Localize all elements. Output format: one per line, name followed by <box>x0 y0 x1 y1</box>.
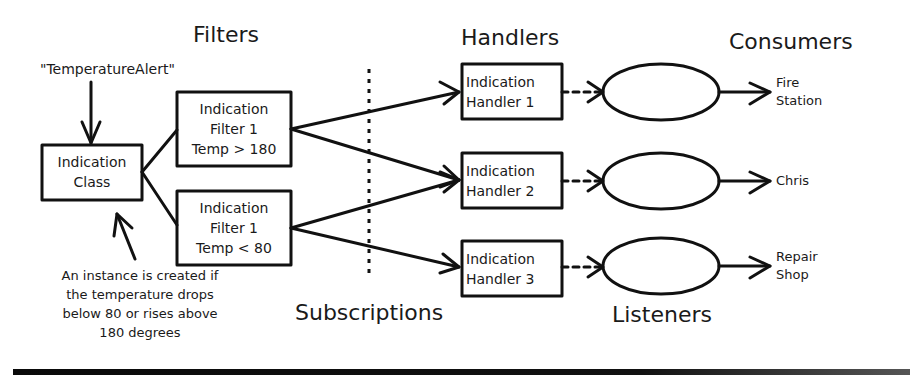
filter-1-to-handler-1-line <box>291 92 459 129</box>
note-line-2: the temperature drops <box>30 285 250 304</box>
consumer-3-line-2: Shop <box>776 266 818 284</box>
event-name-label: "TemperatureAlert" <box>40 60 175 78</box>
note-line-4: 180 degrees <box>30 323 250 342</box>
indication-class-label: Indication Class <box>42 152 142 192</box>
consumer-2-line-1: Chris <box>776 172 809 190</box>
bottom-rule <box>13 369 910 375</box>
filter-2-line-1: Indication <box>177 198 291 218</box>
indication-class-line-2: Class <box>42 172 142 192</box>
filter-1-line-1: Indication <box>177 99 291 119</box>
handler-2-label: Indication Handler 2 <box>466 161 556 201</box>
filter-2-line-2: Filter 1 <box>177 218 291 238</box>
handler-1-line-1: Indication <box>466 72 556 92</box>
handler-2-line-1: Indication <box>466 161 556 181</box>
note-line-1: An instance is created if <box>30 266 250 285</box>
handler-1-line-2: Handler 1 <box>466 92 556 112</box>
filter-2-to-handler-2-line <box>291 180 459 228</box>
note-line-3: below 80 or rises above <box>30 304 250 323</box>
listener-ellipse-2 <box>603 153 719 209</box>
handler-3-label: Indication Handler 3 <box>466 249 556 289</box>
instance-note: An instance is created if the temperatur… <box>30 266 250 342</box>
listener-ellipse-1 <box>603 64 719 120</box>
consumer-2-label: Chris <box>776 172 809 190</box>
filter-2-label: Indication Filter 1 Temp < 80 <box>177 198 291 258</box>
consumers-heading: Consumers <box>729 29 853 54</box>
handler-1-label: Indication Handler 1 <box>466 72 556 112</box>
handler-3-line-1: Indication <box>466 249 556 269</box>
consumer-1-line-1: Fire <box>776 74 822 92</box>
subscriptions-heading: Subscriptions <box>295 300 443 325</box>
handler-2-line-2: Handler 2 <box>466 181 556 201</box>
filter-2-line-3: Temp < 80 <box>177 238 291 258</box>
filter-1-label: Indication Filter 1 Temp > 180 <box>177 99 291 159</box>
filters-heading: Filters <box>193 22 259 47</box>
handlers-heading: Handlers <box>461 25 559 50</box>
listeners-heading: Listeners <box>612 302 712 327</box>
indication-class-line-1: Indication <box>42 152 142 172</box>
handler-3-line-2: Handler 3 <box>466 269 556 289</box>
filter-1-to-handler-2-line <box>291 129 459 180</box>
consumer-3-label: Repair Shop <box>776 248 818 284</box>
filter-1-line-3: Temp > 180 <box>177 139 291 159</box>
filter-2-to-handler-3-line <box>291 228 459 267</box>
listener-ellipse-3 <box>603 238 719 294</box>
consumer-1-line-2: Station <box>776 92 822 110</box>
class-to-filter-2-line <box>142 172 177 225</box>
consumer-3-line-1: Repair <box>776 248 818 266</box>
consumer-1-label: Fire Station <box>776 74 822 110</box>
class-to-filter-1-line <box>142 130 177 172</box>
filter-1-line-2: Filter 1 <box>177 119 291 139</box>
